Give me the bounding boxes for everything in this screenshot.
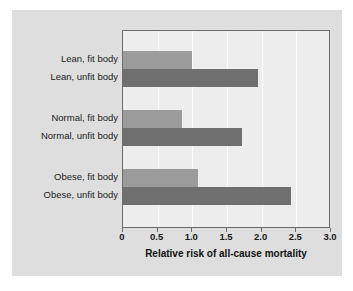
bar-normal-unfit (123, 128, 242, 146)
category-label-obese-unfit: Obese, unfit body (0, 186, 118, 204)
tick-label-2-5: 2.5 (280, 231, 310, 242)
bar-obese-unfit (123, 187, 291, 205)
bar-obese-fit (123, 169, 198, 187)
category-label-lean-fit: Lean, fit body (0, 50, 118, 68)
category-label-obese-fit: Obese, fit body (0, 168, 118, 186)
plot-area (122, 30, 330, 228)
bar-lean-unfit (123, 69, 258, 87)
tick-label-0: 0 (107, 231, 137, 242)
tick-label-1-0: 1.0 (176, 231, 206, 242)
tick-label-3-0: 3.0 (315, 231, 345, 242)
bar-normal-fit (123, 110, 182, 128)
tick-label-1-5: 1.5 (211, 231, 241, 242)
bar-lean-fit (123, 51, 192, 69)
category-label-normal-fit: Normal, fit body (0, 109, 118, 127)
category-label-normal-unfit: Normal, unfit body (0, 127, 118, 145)
x-axis-title: Relative risk of all-cause mortality (122, 248, 330, 259)
tick-label-0-5: 0.5 (142, 231, 172, 242)
category-label-lean-unfit: Lean, unfit body (0, 68, 118, 86)
chart-figure: Lean, fit body Lean, unfit body Normal, … (0, 0, 353, 291)
tick-label-2-0: 2.0 (246, 231, 276, 242)
gridline-2-5 (296, 31, 297, 227)
